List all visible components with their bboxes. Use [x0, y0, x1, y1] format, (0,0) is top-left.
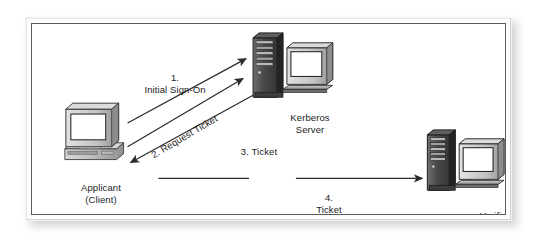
desktop-computer-icon — [65, 103, 124, 159]
verifier-server-icon — [427, 130, 504, 190]
node-label-verifier: Verifier (Server) — [448, 210, 506, 215]
flow-label-4: 4. Ticket — [294, 192, 364, 215]
figure-frame: Applicant (Client) Kerberos Server Verif… — [26, 18, 511, 220]
flow-4-text: Ticket — [294, 204, 364, 216]
flow-label-1: 1. Initial Sign-On — [120, 72, 230, 95]
applicant-label-line2: (Client) — [58, 194, 144, 206]
kerberos-label-line1: Kerberos — [260, 112, 360, 124]
diagram-canvas: Applicant (Client) Kerberos Server Verif… — [31, 23, 506, 215]
flow-label-3: 3. Ticket — [222, 146, 296, 158]
kerberos-diagram-figure: Applicant (Client) Kerberos Server Verif… — [0, 0, 541, 248]
node-label-applicant: Applicant (Client) — [58, 182, 144, 205]
kerberos-label-line2: Server — [260, 124, 360, 136]
flow-3-text: 3. Ticket — [222, 146, 296, 158]
applicant-label-line1: Applicant — [58, 182, 144, 194]
node-label-kerberos-server: Kerberos Server — [260, 112, 360, 135]
flow-1-number: 1. — [120, 72, 230, 84]
verifier-label-line1: Verifier — [448, 210, 506, 215]
flow-4-number: 4. — [294, 192, 364, 204]
kerberos-server-icon — [253, 33, 333, 97]
flow-1-text: Initial Sign-On — [120, 84, 230, 96]
